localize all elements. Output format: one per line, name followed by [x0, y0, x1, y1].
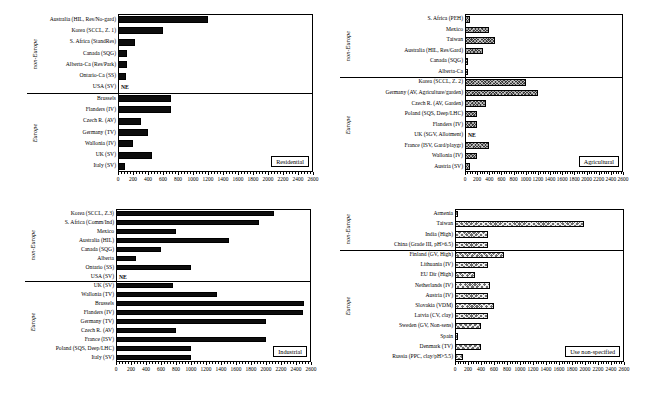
category-label: Russia (PPC, clay/pH>5.5)	[392, 354, 453, 360]
not-evaluated-marker: NE	[468, 132, 476, 138]
category-label: Alberta-Ca (Res/Park)	[66, 62, 116, 68]
x-axis-minor-tick	[577, 362, 578, 364]
x-axis-minor-tick	[518, 172, 519, 174]
x-axis-tick-label: 200	[127, 366, 135, 372]
x-axis-minor-tick	[590, 362, 591, 364]
x-axis-minor-tick	[220, 172, 221, 174]
x-axis-minor-tick	[555, 172, 556, 174]
category-label: Germany (TV)	[81, 319, 114, 325]
x-axis-tick-label: 1000	[520, 176, 531, 182]
x-axis-major-tick	[296, 362, 297, 365]
bar	[118, 27, 163, 34]
x-axis-major-tick	[520, 362, 521, 365]
x-axis-minor-tick	[613, 172, 614, 174]
x-axis-minor-tick	[480, 172, 481, 174]
x-axis-major-tick	[178, 172, 179, 175]
x-axis-tick-label: 1000	[186, 366, 197, 372]
bar	[455, 333, 458, 339]
x-axis-minor-tick	[308, 362, 309, 364]
x-axis-major-tick	[131, 362, 132, 365]
x-axis-minor-tick	[122, 362, 123, 364]
category-label: Austria (IV)	[426, 293, 454, 299]
x-axis-minor-tick	[187, 172, 188, 174]
bar	[116, 337, 266, 343]
x-axis-minor-tick	[521, 172, 522, 174]
x-axis-tick-label: 1600	[231, 366, 242, 372]
category-label: Latvia (CV, clay)	[414, 313, 453, 319]
category-label: Australia (HIL, Res/Gard)	[404, 48, 463, 54]
x-axis-minor-tick	[543, 172, 544, 174]
group-separator	[340, 77, 623, 78]
x-axis-minor-tick	[601, 362, 602, 364]
x-axis-minor-tick	[287, 362, 288, 364]
x-axis-minor-tick	[235, 172, 236, 174]
category-label: Sweden (GV, Non-sens)	[399, 324, 453, 330]
x-axis-minor-tick	[497, 172, 498, 174]
bar	[116, 247, 161, 253]
category-label: Finland (GV, High)	[409, 252, 453, 258]
x-axis-minor-tick	[211, 172, 212, 174]
x-axis-minor-tick	[247, 172, 248, 174]
x-axis-minor-tick	[472, 172, 473, 174]
category-label: Canada (SQG)	[430, 59, 463, 65]
group-separator	[25, 281, 311, 282]
category-label: Korea (SCCL, Z. 2)	[418, 80, 463, 86]
panel-title-box: Agricultural	[579, 156, 619, 167]
x-axis-minor-tick	[577, 172, 578, 174]
group-axis-label-non-europe: non-Europe	[17, 242, 47, 249]
x-axis-minor-tick	[604, 172, 605, 174]
x-axis-tick-label: 1600	[557, 176, 568, 182]
x-axis-minor-tick	[588, 362, 589, 364]
group-separator	[340, 250, 624, 251]
x-axis-major-tick	[624, 362, 625, 365]
bar	[116, 319, 266, 325]
x-axis-minor-tick	[290, 362, 291, 364]
x-axis-minor-tick	[516, 172, 517, 174]
bar	[455, 313, 488, 319]
x-axis-minor-tick	[536, 362, 537, 364]
x-axis-major-tick	[148, 172, 149, 175]
bar	[455, 252, 504, 258]
x-axis-minor-tick	[214, 172, 215, 174]
x-axis-major-tick	[465, 172, 466, 175]
category-label: Australia (HIL, Res/No-gard)	[50, 17, 116, 23]
x-axis-minor-tick	[307, 172, 308, 174]
category-label: Alberta	[97, 256, 114, 262]
bar	[116, 265, 191, 271]
x-axis-minor-tick	[244, 172, 245, 174]
x-axis-minor-tick	[523, 362, 524, 364]
x-axis-tick-label: 0	[115, 366, 118, 372]
bar	[116, 346, 191, 352]
bar	[455, 211, 458, 217]
x-axis-minor-tick	[292, 172, 293, 174]
x-axis-minor-tick	[515, 362, 516, 364]
x-axis-minor-tick	[621, 362, 622, 364]
x-axis-minor-tick	[606, 172, 607, 174]
x-axis-minor-tick	[589, 172, 590, 174]
panel-industrial: Korea (SCCL, Z.3)S. Africa (Comm/Ind)Mex…	[0, 195, 325, 394]
x-axis-major-tick	[146, 362, 147, 365]
x-axis-tick-label: 1200	[528, 366, 539, 372]
x-axis-major-tick	[533, 362, 534, 365]
x-axis-major-tick	[507, 362, 508, 365]
category-label: Flanders (IV)	[86, 107, 116, 113]
x-axis-tick-label: 600	[497, 176, 505, 182]
x-axis-minor-tick	[217, 172, 218, 174]
x-axis-minor-tick	[136, 172, 137, 174]
x-axis-minor-tick	[199, 172, 200, 174]
x-axis-minor-tick	[229, 172, 230, 174]
x-axis-major-tick	[489, 172, 490, 175]
x-axis-tick-label: 2200	[278, 176, 289, 182]
x-axis-tick-label: 400	[485, 176, 493, 182]
x-axis-major-tick	[298, 172, 299, 175]
x-axis-minor-tick	[511, 172, 512, 174]
bar	[455, 323, 481, 329]
category-label: Wallonia (IV)	[85, 141, 116, 147]
x-axis-major-tick	[311, 362, 312, 365]
x-axis-minor-tick	[119, 362, 120, 364]
x-axis-minor-tick	[549, 362, 550, 364]
x-axis-minor-tick	[467, 172, 468, 174]
bar	[116, 310, 303, 316]
x-axis-minor-tick	[523, 172, 524, 174]
x-axis-major-tick	[283, 172, 284, 175]
